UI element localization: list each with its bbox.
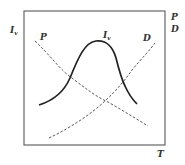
- curve-iv: [39, 41, 137, 105]
- curve-label-iv: Iv: [102, 30, 111, 41]
- axis-label-right-d: D: [170, 24, 179, 34]
- curve-p: [35, 41, 148, 126]
- diagram-canvas: Iv P Iv D P D T: [0, 0, 185, 165]
- axis-label-bottom-t: T: [157, 149, 165, 159]
- axis-label-left: Iv: [9, 25, 18, 36]
- curve-label-p: P: [39, 32, 47, 42]
- curve-label-d: D: [142, 33, 151, 43]
- curve-d: [49, 43, 155, 138]
- axis-label-right-p: P: [170, 12, 178, 22]
